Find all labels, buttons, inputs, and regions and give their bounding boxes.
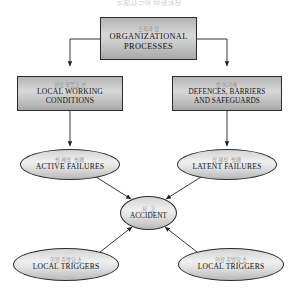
node-latent-failures[interactable]: 잠재적 실패 LATENT FAILURES <box>177 149 277 180</box>
edge-ltright-to-accident <box>165 227 197 252</box>
edge-op-to-dbs <box>197 39 227 66</box>
edge-ltleft-to-accident <box>100 227 132 252</box>
node-english-label-line1: DEFENCES, BARRIERS <box>189 88 266 96</box>
node-english-label-line1: LOCAL TRIGGERS <box>198 263 265 272</box>
node-english-label-line1: ORGANIZATIONAL <box>109 32 187 41</box>
node-english-label-line1: ACTIVE FAILURES <box>36 163 104 172</box>
node-local-working-conditions[interactable]: 현장작업조건 LOCAL WORKING CONDITIONS <box>17 76 123 111</box>
node-english-label-line1: LATENT FAILURES <box>192 163 261 172</box>
diagram-canvas: 조직사고의 발생과정 조직과정 ORGANIZATIONAL PROCESSES… <box>0 0 297 300</box>
node-english-label-line2: CONDITIONS <box>46 97 94 106</box>
edge-af-to-accident <box>96 177 131 199</box>
figure-title: 조직사고의 발생과정 <box>0 0 297 6</box>
node-english-label-line1: ACCIDENT <box>130 212 167 220</box>
node-organizational-processes[interactable]: 조직과정 ORGANIZATIONAL PROCESSES <box>100 17 197 60</box>
node-accident[interactable]: 사 고 ACCIDENT <box>120 196 177 230</box>
node-local-triggers-left[interactable]: 현장촉발요소 LOCAL TRIGGERS <box>13 248 119 281</box>
node-english-label-line1: LOCAL TRIGGERS <box>33 263 100 272</box>
edge-lf-to-accident <box>166 177 201 199</box>
node-english-label-line2: AND SAFEGUARDS <box>194 97 260 105</box>
node-defences-barriers-safeguards[interactable]: 방어기제 DEFENCES, BARRIERS AND SAFEGUARDS <box>172 76 282 111</box>
node-active-failures[interactable]: 실제적 실패 ACTIVE FAILURES <box>20 149 120 180</box>
edge-op-to-lwc <box>70 39 100 66</box>
node-local-triggers-right[interactable]: 현장촉발요소 LOCAL TRIGGERS <box>178 248 284 281</box>
node-english-label-line2: PROCESSES <box>124 42 173 51</box>
